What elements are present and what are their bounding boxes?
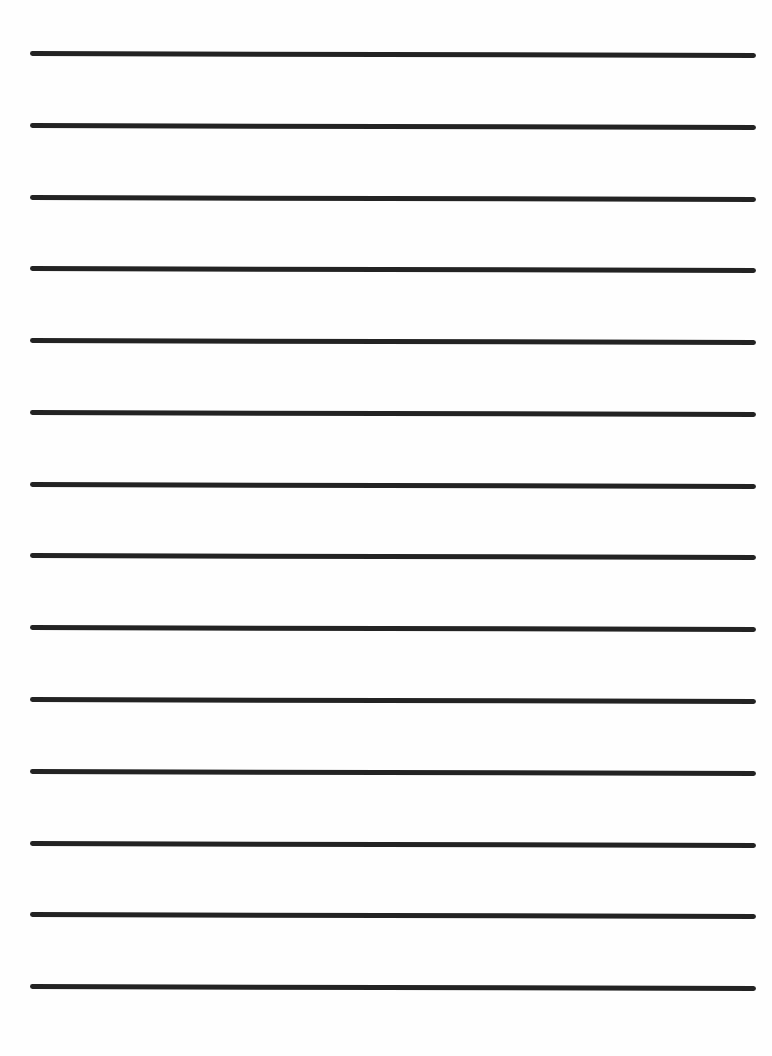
ruled-line — [30, 123, 756, 130]
ruled-line — [30, 697, 756, 704]
ruled-line — [30, 912, 756, 919]
ruled-line — [30, 769, 756, 776]
ruled-line — [30, 984, 756, 991]
ruled-line — [30, 625, 756, 632]
ruled-line — [30, 553, 756, 560]
lined-paper-page — [0, 0, 772, 1056]
ruled-line — [30, 51, 756, 58]
ruled-line — [30, 841, 756, 848]
ruled-line — [30, 482, 756, 489]
ruled-line — [30, 195, 756, 202]
ruled-line — [30, 410, 756, 417]
ruled-line — [30, 338, 756, 345]
ruled-line — [30, 266, 756, 273]
